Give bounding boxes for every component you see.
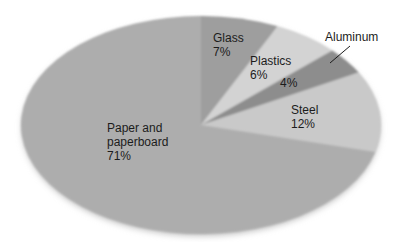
slice-label-glass-line: 7% bbox=[213, 45, 231, 59]
pie-chart-canvas: Glass7%Plastics6%4%AluminumSteel12%Paper… bbox=[0, 0, 393, 242]
slice-label-glass-line: Glass bbox=[213, 31, 244, 45]
slice-label-plastics-line: Plastics bbox=[250, 54, 291, 68]
slice-label-aluminum: 4% bbox=[280, 76, 298, 90]
slice-label-paper-line: 71% bbox=[107, 149, 131, 163]
pie-slices bbox=[21, 16, 381, 234]
slice-label-plastics-line: 6% bbox=[250, 68, 268, 82]
slice-label-aluminum-line: 4% bbox=[280, 76, 298, 90]
pie-chart-figure: Glass7%Plastics6%4%AluminumSteel12%Paper… bbox=[0, 0, 393, 242]
callout-label-aluminum: Aluminum bbox=[325, 30, 378, 44]
slice-label-paper-line: paperboard bbox=[107, 135, 168, 149]
slice-label-paper-line: Paper and bbox=[107, 121, 162, 135]
slice-label-steel-line: Steel bbox=[291, 103, 318, 117]
slice-label-steel-line: 12% bbox=[291, 117, 315, 131]
slice-label-steel: Steel12% bbox=[291, 103, 318, 131]
